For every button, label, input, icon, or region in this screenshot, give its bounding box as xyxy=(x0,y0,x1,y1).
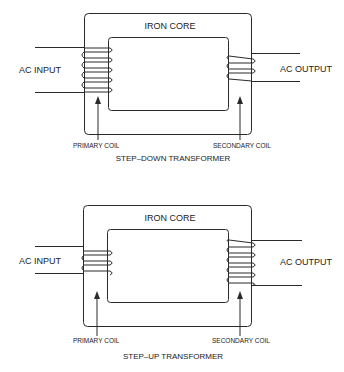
primary-coil-label: PRIMARY COIL xyxy=(73,337,120,344)
iron-core-label: IRON CORE xyxy=(144,21,195,31)
step-down-transformer xyxy=(35,14,300,141)
secondary-coil-label: SECONDARY COIL xyxy=(212,337,270,344)
primary-arrowhead-icon xyxy=(95,96,101,104)
primary-coil-label: PRIMARY COIL xyxy=(73,142,120,149)
secondary-arrowhead-icon xyxy=(237,96,243,104)
iron-core-inner xyxy=(108,230,229,303)
primary-coil xyxy=(82,48,112,92)
step-up-title: STEP–UP TRANSFORMER xyxy=(123,352,223,361)
transformer-diagrams: IRON CORE AC INPUT AC OUTPUT PRIMARY COI… xyxy=(0,0,344,372)
iron-core-label: IRON CORE xyxy=(144,213,195,223)
ac-input-label: AC INPUT xyxy=(19,65,62,75)
ac-input-label: AC INPUT xyxy=(19,256,62,266)
step-up-transformer xyxy=(35,206,302,337)
secondary-coil-label: SECONDARY COIL xyxy=(213,142,271,149)
primary-arrowhead-icon xyxy=(94,291,100,299)
iron-core-outer xyxy=(84,206,252,327)
secondary-arrowhead-icon xyxy=(237,291,243,299)
ac-output-label: AC OUTPUT xyxy=(280,64,333,74)
ac-output-label: AC OUTPUT xyxy=(280,257,333,267)
iron-core-outer xyxy=(85,14,252,135)
step-down-title: STEP–DOWN TRANSFORMER xyxy=(116,154,231,163)
iron-core-inner xyxy=(109,38,229,111)
